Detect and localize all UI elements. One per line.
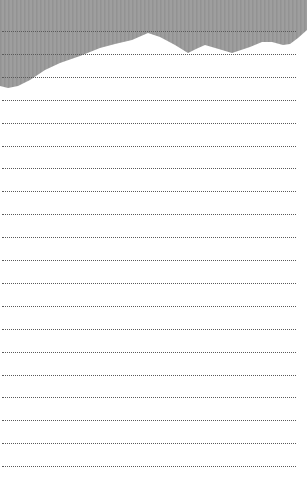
ruled-line xyxy=(2,214,296,215)
ruled-line xyxy=(2,443,296,444)
ruled-line xyxy=(2,466,296,467)
ruled-line xyxy=(2,146,296,147)
notepad-page xyxy=(0,0,307,481)
ruled-line xyxy=(2,123,296,124)
ruled-line xyxy=(2,420,296,421)
ruled-line xyxy=(2,260,296,261)
ruled-line xyxy=(2,54,296,55)
ruled-lines xyxy=(0,0,307,481)
ruled-line xyxy=(2,329,296,330)
ruled-line xyxy=(2,191,296,192)
ruled-line xyxy=(2,31,296,32)
ruled-line xyxy=(2,168,296,169)
ruled-line xyxy=(2,77,296,78)
ruled-line xyxy=(2,283,296,284)
ruled-line xyxy=(2,352,296,353)
ruled-line xyxy=(2,397,296,398)
ruled-line xyxy=(2,375,296,376)
ruled-line xyxy=(2,306,296,307)
ruled-line xyxy=(2,100,296,101)
ruled-line xyxy=(2,237,296,238)
